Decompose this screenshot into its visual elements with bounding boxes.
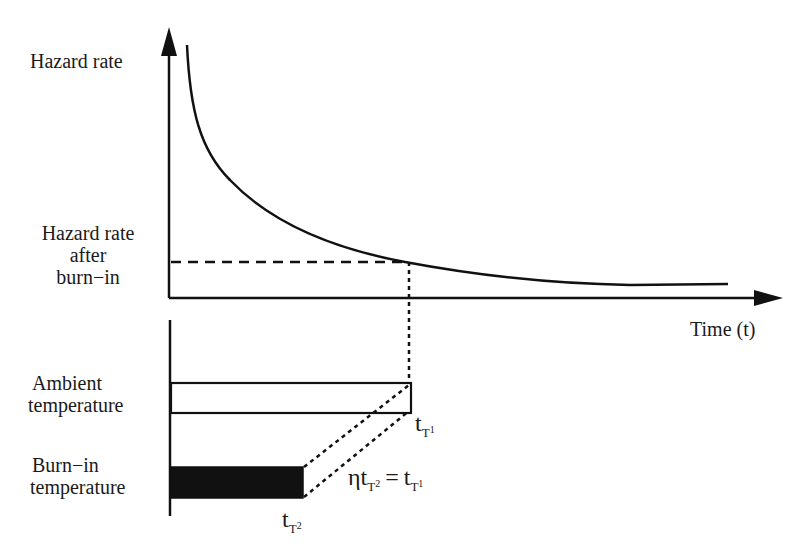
hazard-after-burnin-label: Hazard rate after burn−in: [28, 222, 148, 288]
label-line: burn−in: [28, 266, 148, 288]
label-line: temperature: [28, 394, 158, 416]
ambient-temperature-bar: [171, 383, 411, 413]
burnin-temperature-label: Burn−in temperature: [30, 454, 160, 498]
label-line: Burn−in: [30, 454, 160, 476]
x-axis-label: Time (t): [690, 318, 755, 340]
burnin-temperature-bar: [171, 467, 303, 498]
equivalence-equation: ηtT2 = tT1: [348, 466, 423, 498]
t-t1-label: tT1: [415, 412, 435, 444]
label-line: Hazard rate: [28, 222, 148, 244]
t-t2-label: tT2: [282, 508, 302, 540]
y-axis-arrowhead-icon: [161, 27, 177, 56]
label-line: after: [28, 244, 148, 266]
x-axis-arrowhead-icon: [754, 290, 783, 306]
label-line: temperature: [30, 476, 160, 498]
hazard-curve: [187, 45, 728, 285]
label-line: Ambient: [28, 372, 158, 394]
ambient-temperature-label: Ambient temperature: [28, 372, 158, 416]
y-axis-label: Hazard rate: [30, 50, 123, 72]
